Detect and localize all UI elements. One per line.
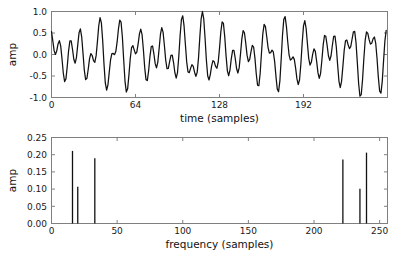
- x-tick-label: 100: [174, 226, 191, 236]
- y-tick-label: 0.00: [27, 219, 47, 229]
- x-tick-label: 250: [371, 226, 388, 236]
- y-axis-label: amp: [6, 169, 18, 193]
- waveform-line: [52, 12, 387, 97]
- x-tick-label: 150: [240, 226, 257, 236]
- matplotlib-figure: 064128192-1.0-0.50.00.51.0time (samples)…: [0, 0, 402, 255]
- x-axis-label: time (samples): [180, 112, 259, 124]
- x-tick-label: 0: [49, 226, 55, 236]
- y-tick-label: 0.20: [27, 150, 47, 160]
- x-axis-label: frequency (samples): [166, 238, 274, 250]
- y-tick-label: -1.0: [29, 93, 47, 103]
- y-tick-label: 0.25: [27, 133, 47, 143]
- x-tick-label: 192: [295, 100, 312, 110]
- x-tick-label: 64: [130, 100, 142, 110]
- y-tick-label: -0.5: [29, 71, 47, 81]
- y-tick-label: 0.10: [27, 184, 47, 194]
- y-axis-label: amp: [6, 43, 18, 67]
- y-tick-label: 0.05: [27, 202, 47, 212]
- y-tick-label: 1.0: [33, 7, 48, 17]
- y-tick-label: 0.0: [33, 50, 48, 60]
- y-tick-label: 0.15: [27, 167, 47, 177]
- x-tick-label: 0: [49, 100, 55, 110]
- figure-canvas: 064128192-1.0-0.50.00.51.0time (samples)…: [0, 0, 402, 255]
- y-tick-label: 0.5: [33, 28, 47, 38]
- axes-spine: [52, 138, 388, 224]
- x-tick-label: 50: [111, 226, 123, 236]
- x-tick-label: 200: [305, 226, 322, 236]
- axes-waveform: 064128192-1.0-0.50.00.51.0time (samples)…: [6, 7, 388, 124]
- x-tick-label: 128: [211, 100, 228, 110]
- axes-spectrum: 0501001502002500.000.050.100.150.200.25f…: [6, 133, 388, 250]
